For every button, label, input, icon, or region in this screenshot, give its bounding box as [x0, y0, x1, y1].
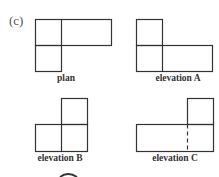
plan-label: plan: [57, 73, 75, 83]
elevation-b-view: [36, 99, 88, 152]
elevation-b-label: elevation B: [37, 153, 82, 163]
outline-rect: [137, 20, 163, 46]
orthographic-views-drawing: [0, 0, 219, 177]
outline-rect: [62, 99, 88, 125]
plan-view: [36, 20, 112, 72]
outline-rect: [36, 46, 62, 72]
elevation-c-view: [137, 99, 214, 152]
elevation-a-view: [137, 20, 213, 72]
outline-rect: [188, 99, 214, 125]
outline-rect: [36, 20, 112, 46]
elevation-a-label: elevation A: [155, 73, 200, 83]
cropped-arc-fragment: [60, 174, 77, 177]
outline-rect: [137, 46, 213, 72]
outline-rect: [137, 125, 214, 152]
elevation-c-label: elevation C: [152, 153, 198, 163]
diagram-canvas: (c) plan elevation A elevation B elevati…: [0, 0, 219, 177]
part-label: (c): [9, 13, 23, 29]
